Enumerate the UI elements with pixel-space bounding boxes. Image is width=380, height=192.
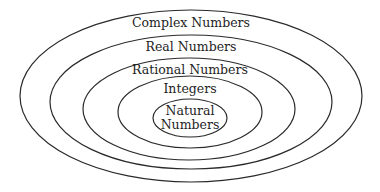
real-numbers-label: Real Numbers (146, 39, 237, 54)
complex-numbers-ellipse (20, 10, 362, 182)
nested-ellipses: Complex Numbers Real Numbers Rational Nu… (0, 0, 380, 192)
complex-numbers-label: Complex Numbers (132, 15, 250, 30)
rational-numbers-label: Rational Numbers (132, 62, 248, 77)
number-sets-diagram: Complex Numbers Real Numbers Rational Nu… (0, 0, 380, 192)
real-numbers-ellipse (50, 35, 332, 169)
integers-label: Integers (163, 81, 216, 96)
natural-numbers-label-line1: Natural (166, 103, 215, 118)
natural-numbers-label-line2: Numbers (161, 117, 220, 132)
